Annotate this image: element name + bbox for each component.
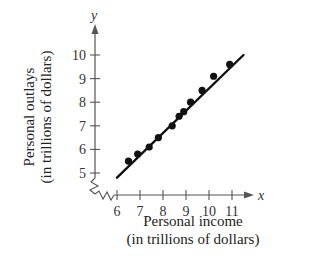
data-point [155,134,162,141]
y-tick-label: 5 [79,166,86,181]
y-tick-label: 8 [79,95,86,110]
x-axis-arrow-icon [244,192,254,199]
y-tick-label: 9 [79,72,86,87]
y-axis-label: Personal outlays (in trillions of dollar… [21,17,55,217]
data-point [199,87,206,94]
y-tick-label: 10 [72,48,86,63]
x-axis-label-line1: Personal income [98,212,280,230]
y-tick-label: 6 [79,142,86,157]
data-point [134,151,141,158]
y-axis-label-line1: Personal outlays [21,17,38,217]
axes: xy [89,8,265,203]
x-axis-symbol: x [257,188,265,203]
data-point [226,61,233,68]
data-point [125,158,132,165]
x-axis-label-line2: (in trillions of dollars) [98,230,280,248]
y-axis-symbol: y [89,8,98,23]
y-tick-label: 7 [79,119,86,134]
x-axis-break [95,191,114,200]
data-point [180,108,187,115]
y-axis-break [90,178,98,194]
y-axis-label-line2: (in trillions of dollars) [38,17,55,217]
data-points [125,61,233,165]
data-point [169,122,176,129]
y-axis-arrow-icon [92,24,99,34]
data-point [146,143,153,150]
x-axis-label: Personal income (in trillions of dollars… [98,212,280,248]
data-point [210,73,217,80]
data-point [187,99,194,106]
